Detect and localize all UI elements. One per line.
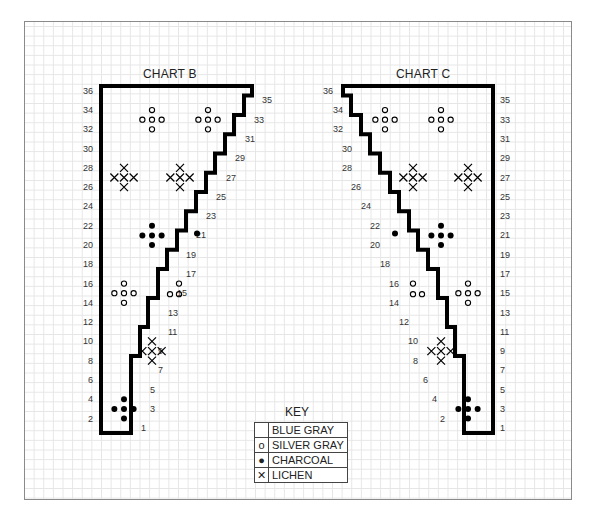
lichen-stitch-icon — [409, 174, 417, 182]
row-number-label: 8 — [413, 356, 418, 366]
row-number-label: 16 — [83, 279, 93, 289]
silver-gray-stitch-icon — [465, 281, 470, 286]
row-number-label: 20 — [370, 240, 380, 250]
key-label: SILVER GRAY — [269, 438, 348, 453]
row-number-label: 30 — [342, 144, 352, 154]
row-number-label: 5 — [150, 385, 155, 395]
row-number-label: 23 — [206, 211, 216, 221]
key-label: LICHEN — [269, 468, 348, 483]
charcoal-stitch-icon — [475, 406, 481, 412]
row-number-label: 5 — [500, 385, 505, 395]
row-number-label: 31 — [500, 134, 510, 144]
row-number-label: 11 — [500, 327, 509, 337]
charcoal-stitch-icon — [465, 396, 471, 402]
silver-gray-stitch-icon — [149, 107, 154, 112]
lichen-stitch-icon — [176, 164, 184, 172]
row-number-label: 18 — [380, 259, 390, 269]
row-number-label: 25 — [216, 192, 226, 202]
row-number-label: 2 — [440, 414, 445, 424]
row-number-label: 3 — [150, 404, 155, 414]
open-circle-icon: o — [255, 438, 269, 453]
charcoal-stitch-icon — [159, 232, 165, 238]
silver-gray-stitch-icon — [140, 117, 145, 122]
row-number-label: 27 — [500, 173, 510, 183]
charcoal-stitch-icon — [149, 242, 155, 248]
silver-gray-stitch-icon — [410, 281, 415, 286]
silver-gray-stitch-icon — [205, 127, 210, 132]
row-number-label: 20 — [83, 240, 93, 250]
silver-gray-stitch-icon — [205, 107, 210, 112]
silver-gray-stitch-icon — [159, 117, 164, 122]
chart-b-outline — [101, 86, 252, 433]
row-number-label: 27 — [226, 173, 236, 183]
row-number-label: 10 — [408, 336, 418, 346]
row-number-label: 34 — [83, 105, 93, 115]
lichen-stitch-icon — [130, 174, 138, 182]
cross-icon: ✕ — [255, 468, 269, 483]
charcoal-stitch-icon — [428, 232, 434, 238]
silver-gray-stitch-icon — [121, 281, 126, 286]
silver-gray-stitch-icon — [382, 117, 387, 122]
charcoal-stitch-icon — [121, 406, 127, 412]
row-number-label: 21 — [500, 230, 510, 240]
row-number-label: 3 — [500, 404, 505, 414]
row-number-label: 28 — [83, 163, 93, 173]
lichen-stitch-icon — [148, 357, 156, 365]
row-number-label: 12 — [399, 317, 409, 327]
filled-dot-icon: ● — [255, 453, 269, 468]
silver-gray-stitch-icon — [438, 107, 443, 112]
row-number-label: 19 — [500, 250, 510, 260]
charcoal-stitch-icon — [438, 223, 444, 229]
key-label: BLUE GRAY — [269, 423, 348, 438]
row-number-label: 12 — [83, 317, 93, 327]
lichen-stitch-icon — [110, 174, 118, 182]
silver-gray-stitch-icon — [456, 291, 461, 296]
row-number-label: 34 — [333, 105, 343, 115]
lichen-stitch-icon — [474, 174, 482, 182]
row-number-label: 33 — [500, 115, 510, 125]
lichen-stitch-icon — [427, 347, 435, 355]
charcoal-stitch-icon — [465, 406, 471, 412]
row-number-label: 29 — [235, 153, 245, 163]
row-number-label: 6 — [88, 375, 93, 385]
silver-gray-stitch-icon — [373, 117, 378, 122]
silver-gray-stitch-icon — [112, 291, 117, 296]
silver-gray-stitch-icon — [196, 117, 201, 122]
row-number-label: 14 — [83, 298, 93, 308]
charcoal-stitch-icon — [438, 232, 444, 238]
lichen-stitch-icon — [437, 337, 445, 345]
lichen-stitch-icon — [120, 174, 128, 182]
key-row-lichen: ✕LICHEN — [255, 468, 348, 483]
row-number-label: 2 — [88, 414, 93, 424]
lichen-stitch-icon — [166, 174, 174, 182]
lichen-stitch-icon — [399, 174, 407, 182]
silver-gray-stitch-icon — [131, 291, 136, 296]
row-number-label: 35 — [262, 95, 272, 105]
row-number-label: 11 — [168, 327, 177, 337]
row-number-label: 19 — [186, 250, 196, 260]
silver-gray-stitch-icon — [176, 281, 181, 286]
lichen-stitch-icon — [419, 174, 427, 182]
silver-gray-stitch-icon — [410, 292, 415, 297]
silver-gray-stitch-icon — [438, 117, 443, 122]
row-number-label: 31 — [245, 134, 255, 144]
charcoal-stitch-icon — [455, 406, 461, 412]
silver-gray-stitch-icon — [448, 117, 453, 122]
row-number-label: 32 — [333, 124, 343, 134]
silver-gray-stitch-icon — [215, 117, 220, 122]
row-number-label: 16 — [389, 279, 399, 289]
chart-c-outline — [343, 86, 493, 433]
row-number-label: 24 — [361, 201, 371, 211]
charcoal-stitch-icon — [438, 242, 444, 248]
lichen-stitch-icon — [454, 174, 462, 182]
silver-gray-stitch-icon — [465, 291, 470, 296]
silver-gray-stitch-icon — [149, 127, 154, 132]
row-number-label: 9 — [500, 346, 505, 356]
row-number-label: 36 — [323, 86, 333, 96]
row-number-label: 25 — [500, 192, 510, 202]
charcoal-stitch-icon — [448, 232, 454, 238]
key-label: CHARCOAL — [269, 453, 348, 468]
row-number-label: 29 — [500, 153, 510, 163]
row-number-label: 14 — [389, 298, 399, 308]
charcoal-stitch-icon — [194, 230, 200, 236]
